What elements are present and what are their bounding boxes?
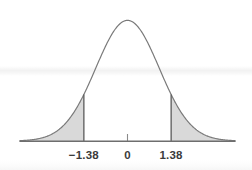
normal-curve-plot	[0, 0, 252, 170]
normal-curve-outline	[20, 20, 235, 140]
x-axis-tick-label-zero: 0	[124, 149, 131, 162]
normal-distribution-figure: −1.38 0 1.38	[0, 0, 252, 170]
x-axis-tick-label-positive: 1.38	[160, 149, 183, 162]
x-axis-tick-label-negative: −1.38	[69, 149, 99, 162]
